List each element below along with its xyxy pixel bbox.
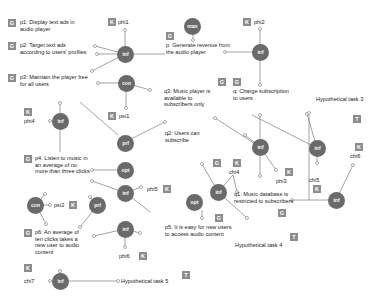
softgoal-badge: G xyxy=(215,214,223,222)
goal-p6[interactable]: p6: An average of ten clicks takes a new… xyxy=(35,229,85,255)
goal-p[interactable]: p: Generate revenue from the audio playe… xyxy=(166,42,238,55)
node-inf[interactable]: inf xyxy=(52,113,69,130)
node-opt[interactable]: opt xyxy=(186,194,203,211)
knowledge-phi6[interactable]: phi6 xyxy=(119,253,130,260)
goal-badge: G xyxy=(166,32,174,40)
node-inf[interactable]: inf xyxy=(117,185,134,202)
goal-badge: G xyxy=(218,78,226,86)
knowledge-psi1[interactable]: psi1 xyxy=(119,113,129,120)
knowledge-badge: K xyxy=(24,108,32,116)
node-prf[interactable]: prf xyxy=(117,135,134,152)
goal-q3[interactable]: q3: Music player is available to subscri… xyxy=(164,88,219,108)
goal-badge: G xyxy=(8,74,16,82)
goal-badge: G xyxy=(24,229,32,237)
knowledge-phi1[interactable]: phi1 xyxy=(118,19,129,26)
goal-badge: G xyxy=(24,155,32,163)
node-inf[interactable]: inf xyxy=(328,192,345,209)
knowledge-badge: K xyxy=(355,143,363,151)
node-prf[interactable]: prf xyxy=(89,197,106,214)
task-badge: T xyxy=(353,115,361,123)
knowledge-chi6[interactable]: chi6 xyxy=(350,153,360,160)
goal-q[interactable]: q: Charge subscription to users xyxy=(233,88,293,101)
node-opt[interactable]: opt xyxy=(117,162,134,179)
goal-p4[interactable]: p4: Listen to music in an average of no … xyxy=(35,155,90,175)
node-con[interactable]: con xyxy=(118,75,135,92)
knowledge-badge: K xyxy=(108,112,116,120)
node-inf[interactable]: inf xyxy=(210,184,227,201)
goal-q1[interactable]: q1: Music database is restricted to subs… xyxy=(234,191,294,204)
knowledge-badge: K xyxy=(69,201,77,209)
goal-badge: G xyxy=(213,159,221,167)
node-inf[interactable]: inf xyxy=(117,221,134,238)
node-inf[interactable]: inf xyxy=(52,273,69,290)
node-inf[interactable]: inf xyxy=(252,44,269,61)
knowledge-phi3[interactable]: phi3 xyxy=(276,178,287,185)
knowledge-badge: K xyxy=(285,168,293,176)
knowledge-phi4[interactable]: phi4 xyxy=(24,118,35,125)
task-badge: T xyxy=(182,271,190,279)
node-con[interactable]: con xyxy=(27,197,44,214)
node-man[interactable]: man xyxy=(184,18,201,35)
knowledge-badge: K xyxy=(243,18,251,26)
knowledge-badge: K xyxy=(313,185,321,193)
knowledge-chi4[interactable]: chi4 xyxy=(229,169,239,176)
goal-badge: G xyxy=(8,19,16,27)
knowledge-phi5[interactable]: phi5 xyxy=(147,186,158,193)
task-5[interactable]: Hypothetical task 5 xyxy=(121,278,168,285)
goal-p5[interactable]: p5: It is easy for new users to access a… xyxy=(165,224,233,237)
edge xyxy=(233,175,237,192)
knowledge-badge: K xyxy=(139,252,147,260)
node-inf[interactable]: inf xyxy=(117,46,134,63)
goal-badge: G xyxy=(233,78,241,86)
task-3[interactable]: Hypothetical task 3 xyxy=(316,96,363,103)
knowledge-badge: K xyxy=(24,264,32,272)
knowledge-chi5[interactable]: chi5 xyxy=(309,177,319,184)
knowledge-phi2[interactable]: phi2 xyxy=(254,19,265,26)
task-4[interactable]: Hypothetical task 4 xyxy=(235,242,282,249)
goal-p2[interactable]: p2: Target text ads according to users' … xyxy=(20,42,88,55)
knowledge-badge: K xyxy=(108,18,116,26)
knowledge-chi7[interactable]: chi7 xyxy=(24,278,34,285)
knowledge-badge: K xyxy=(233,159,241,167)
goal-p3[interactable]: p3: Maintain the player free for all use… xyxy=(20,74,88,87)
goal-p1[interactable]: p1: Display text ads in audio player xyxy=(20,19,88,32)
node-inf[interactable]: inf xyxy=(309,140,326,157)
goal-badge: G xyxy=(278,209,286,217)
goal-q2[interactable]: q2: Users can subscribe xyxy=(165,130,210,143)
knowledge-badge: K xyxy=(163,185,171,193)
goal-badge: G xyxy=(8,42,16,50)
knowledge-psi2[interactable]: psi2 xyxy=(54,202,64,209)
node-inf[interactable]: inf xyxy=(252,139,269,156)
task-badge: T xyxy=(290,233,298,241)
